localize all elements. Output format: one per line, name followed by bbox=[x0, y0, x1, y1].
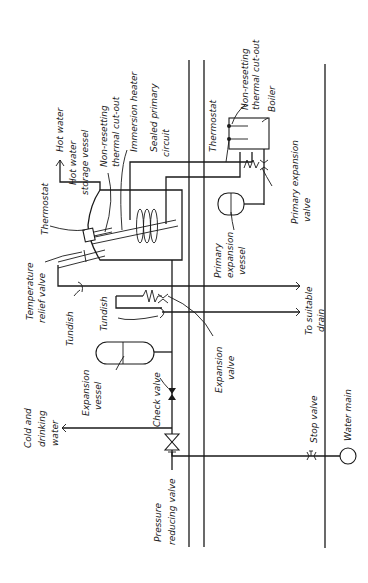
label-stop-valve: Stop valve bbox=[309, 395, 319, 443]
unvented-hot-water-diagram: Hot water Hot water storage vessel Non-r… bbox=[0, 0, 368, 583]
label-hot-water-storage-vessel-2: storage vessel bbox=[80, 129, 90, 195]
label-check-valve: Check valve bbox=[152, 372, 162, 427]
expansion-valve bbox=[116, 290, 168, 308]
label-thermostat-boiler: Thermostat bbox=[208, 100, 218, 152]
label-temp-relief-2: relief valve bbox=[37, 273, 47, 323]
label-cold-drinking-3: water bbox=[50, 419, 60, 446]
label-boiler-non-resetting-1: Non-resetting bbox=[240, 48, 250, 110]
label-primary-expansion-valve-1: Primary expansion bbox=[290, 140, 300, 224]
label-to-drain-1: To suitable bbox=[304, 286, 314, 335]
pressure-reducing-valve bbox=[165, 434, 179, 452]
drain-lines bbox=[162, 282, 300, 316]
label-primary-expansion-vessel-3: vessel bbox=[237, 246, 247, 275]
hot-water-outlet bbox=[56, 160, 100, 190]
incoming-main bbox=[172, 452, 348, 456]
label-tundish-lower: Tundish bbox=[99, 296, 109, 331]
primary-expansion-valve bbox=[244, 149, 268, 205]
label-boiler: Boiler bbox=[267, 85, 277, 112]
expansion-vessel bbox=[96, 342, 172, 364]
label-pressure-reducing-2: reducing valve bbox=[167, 478, 177, 545]
label-sealed-primary-2: circuit bbox=[161, 129, 171, 157]
label-water-main: Water main bbox=[343, 389, 353, 441]
tundish-lower bbox=[160, 308, 164, 318]
label-temp-relief-1: Temperature bbox=[25, 262, 35, 320]
boiler bbox=[227, 118, 269, 149]
label-primary-expansion-vessel-1: Primary bbox=[213, 242, 223, 278]
label-non-resetting-1: Non-resetting bbox=[99, 105, 109, 167]
label-expansion-valve-1: Expansion bbox=[214, 346, 224, 393]
label-to-drain-2: drain bbox=[316, 309, 326, 332]
label-hot-water-storage-vessel-1: Hot water bbox=[68, 139, 78, 185]
hot-water-storage-vessel bbox=[83, 190, 182, 260]
labels: Hot water Hot water storage vessel Non-r… bbox=[23, 39, 353, 545]
label-sealed-primary-1: Sealed primary bbox=[149, 83, 159, 152]
temperature-relief-valve bbox=[58, 250, 180, 286]
label-hot-water: Hot water bbox=[55, 106, 65, 152]
label-expansion-vessel-2: vessel bbox=[93, 381, 103, 410]
label-immersion-heater: Immersion heater bbox=[129, 70, 139, 152]
label-tundish-upper: Tundish bbox=[65, 311, 75, 346]
label-primary-expansion-vessel-2: expansion bbox=[225, 232, 235, 278]
label-cold-drinking-1: Cold and bbox=[23, 408, 33, 448]
label-non-resetting-2: thermal cut-out bbox=[111, 96, 121, 167]
label-primary-expansion-valve-2: valve bbox=[302, 197, 312, 222]
label-boiler-non-resetting-2: thermal cut-out bbox=[251, 39, 261, 110]
label-thermostat-vessel: Thermostat bbox=[40, 183, 50, 235]
water-main-symbol bbox=[340, 448, 356, 464]
primary-expansion-vessel bbox=[218, 193, 264, 215]
label-expansion-valve-2: valve bbox=[226, 355, 236, 380]
check-valve bbox=[168, 388, 176, 400]
label-cold-drinking-2: drinking bbox=[37, 410, 47, 447]
label-expansion-vessel-1: Expansion bbox=[81, 369, 91, 416]
label-pressure-reducing-1: Pressure bbox=[153, 503, 163, 542]
